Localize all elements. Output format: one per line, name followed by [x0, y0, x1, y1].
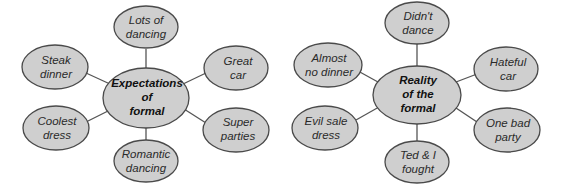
node-label: fought — [402, 163, 435, 175]
link — [356, 107, 379, 120]
node-label: formal — [129, 105, 165, 117]
node-label: of — [142, 91, 154, 103]
node-label: dancing — [126, 28, 167, 40]
node-label: dance — [402, 24, 433, 36]
outer-node-steak-dinner: Steak dinner — [22, 45, 88, 89]
outer-node-great-car: Great car — [204, 46, 268, 90]
node-ellipse — [23, 106, 89, 150]
node-label: car — [500, 70, 517, 82]
node-ellipse — [292, 106, 358, 150]
node-label: Coolest — [38, 115, 78, 127]
node-ellipse — [22, 45, 88, 89]
node-label: dinner — [40, 68, 73, 80]
node-ellipse — [474, 108, 540, 152]
node-ellipse — [114, 140, 178, 182]
link — [184, 109, 206, 123]
node-label: Steak — [41, 54, 72, 66]
node-label: dress — [43, 129, 71, 141]
node-ellipse — [385, 2, 449, 44]
outer-node-coolest-dress: Coolest dress — [23, 106, 89, 150]
center-node-reality: Reality of the formal — [373, 66, 461, 124]
outer-node-lots-of-dancing: Lots of dancing — [114, 6, 178, 48]
node-label: car — [230, 69, 247, 81]
node-ellipse — [114, 6, 178, 48]
node-ellipse — [294, 43, 362, 87]
node-label: Lots of — [129, 14, 165, 26]
node-label: Hateful — [490, 56, 527, 68]
node-label: parties — [220, 130, 256, 142]
node-label: Great — [224, 55, 254, 67]
outer-node-romantic-dancing: Romantic dancing — [114, 140, 178, 182]
node-ellipse — [204, 46, 268, 90]
link — [86, 110, 110, 122]
node-ellipse — [385, 141, 449, 183]
center-node-expectations: Expectations of formal — [103, 68, 189, 128]
node-label: Didn't — [403, 10, 433, 22]
node-label: party — [494, 131, 522, 143]
outer-node-ted-and-i-fought: Ted & I fought — [385, 141, 449, 183]
node-ellipse — [474, 47, 538, 91]
link — [86, 73, 110, 84]
outer-node-almost-no-dinner: Almost no dinner — [294, 43, 362, 87]
node-label: Expectations — [111, 77, 183, 89]
node-label: Reality — [399, 74, 437, 86]
outer-node-one-bad-party: One bad party — [474, 108, 540, 152]
outer-node-super-parties: Super parties — [203, 108, 269, 152]
link — [183, 73, 206, 84]
node-label: Ted & I — [400, 149, 437, 161]
link — [358, 71, 378, 82]
outer-node-hateful-car: Hateful car — [474, 47, 538, 91]
node-label: dress — [312, 129, 340, 141]
node-label: of the — [402, 88, 434, 100]
link — [456, 108, 477, 122]
link — [456, 74, 477, 82]
outer-node-evil-sale-dress: Evil sale dress — [292, 106, 358, 150]
web-diagrams: Lots of dancing Steak dinner Great car C… — [0, 0, 563, 191]
node-label: Almost — [310, 52, 347, 64]
node-label: Romantic — [122, 148, 171, 160]
diagram-reality: Didn't dance Almost no dinner Hateful ca… — [292, 2, 540, 183]
node-label: One bad — [486, 117, 531, 129]
node-label: no dinner — [305, 66, 354, 78]
outer-node-didnt-dance: Didn't dance — [385, 2, 449, 44]
diagram-expectations: Lots of dancing Steak dinner Great car C… — [22, 6, 269, 182]
node-label: formal — [400, 102, 436, 114]
node-label: dancing — [126, 162, 167, 174]
node-label: Super — [223, 116, 255, 128]
node-label: Evil sale — [305, 115, 348, 127]
